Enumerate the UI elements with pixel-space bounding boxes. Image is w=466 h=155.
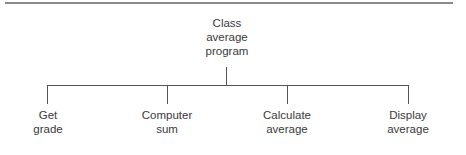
child-connector-2 [167,85,168,104]
child-node-1-line-1: Get [33,108,62,122]
child-connector-4 [408,85,409,104]
child-node-2-line-1: Computer [142,108,193,122]
root-node: Class average program [206,16,249,58]
child-node-get-grade: Get grade [33,108,62,136]
horizontal-connector [47,85,409,86]
root-node-line-1: Class [206,16,249,30]
child-node-display-average: Display average [387,108,429,136]
root-node-line-3: program [206,44,249,58]
child-node-3-line-2: average [263,122,311,136]
child-node-2-line-2: sum [142,122,193,136]
child-node-calculate-average: Calculate average [263,108,311,136]
child-connector-1 [47,85,48,104]
top-rule [5,2,453,4]
child-connector-3 [287,85,288,104]
child-node-3-line-1: Calculate [263,108,311,122]
root-node-line-2: average [206,30,249,44]
child-node-computer-sum: Computer sum [142,108,193,136]
root-connector [226,67,227,86]
child-node-4-line-1: Display [387,108,429,122]
child-node-4-line-2: average [387,122,429,136]
child-node-1-line-2: grade [33,122,62,136]
